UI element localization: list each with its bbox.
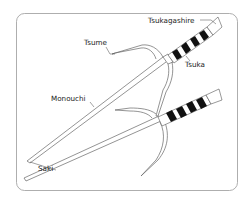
lower-tsuka	[158, 89, 222, 126]
sai-diagram: Tsukagashire Tsume Tsuka Monouchi Saki	[0, 0, 247, 203]
label-monouchi: Monouchi	[51, 94, 86, 103]
label-saki: Saki	[38, 164, 53, 173]
label-tsuka: Tsuka	[184, 60, 205, 69]
label-tsukagashire: Tsukagashire	[147, 16, 195, 25]
upper-sai	[27, 45, 173, 163]
label-tsume: Tsume	[83, 38, 108, 47]
